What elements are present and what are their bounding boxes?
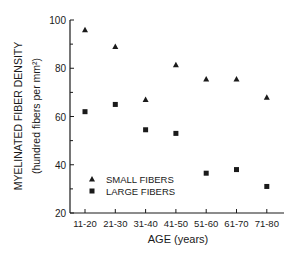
- x-tick-label: 31-40: [133, 218, 157, 229]
- legend-label: LARGE FIBERS: [106, 186, 175, 197]
- y-tick-label: 80: [55, 63, 67, 74]
- large-fiber-point: [173, 131, 178, 136]
- y-tick-label: 40: [55, 160, 67, 171]
- legend-triangle-icon: [89, 176, 95, 182]
- small-fiber-point: [264, 94, 270, 100]
- x-axis-label: AGE (years): [148, 233, 209, 245]
- scatter-chart: 2040608010011-2021-3031-4041-5051-6061-7…: [0, 0, 298, 256]
- large-fiber-point: [264, 184, 269, 189]
- small-fiber-point: [82, 27, 88, 33]
- x-tick-label: 11-20: [73, 218, 97, 229]
- y-tick-label: 60: [55, 112, 67, 123]
- x-tick-label: 71-80: [255, 218, 279, 229]
- y-tick-label: 20: [55, 208, 67, 219]
- x-tick-label: 21-30: [103, 218, 127, 229]
- small-fiber-point: [143, 97, 149, 103]
- small-fiber-point: [173, 62, 179, 68]
- small-fiber-point: [234, 76, 240, 82]
- small-fiber-point: [203, 76, 209, 82]
- legend-square-icon: [90, 189, 95, 194]
- y-tick-label: 100: [49, 15, 66, 26]
- x-tick-label: 41-50: [164, 218, 188, 229]
- x-tick-label: 61-70: [224, 218, 248, 229]
- large-fiber-point: [204, 171, 209, 176]
- large-fiber-point: [83, 109, 88, 114]
- large-fiber-point: [234, 167, 239, 172]
- large-fiber-point: [113, 102, 118, 107]
- x-tick-label: 51-60: [194, 218, 218, 229]
- large-fiber-point: [143, 127, 148, 132]
- small-fiber-point: [112, 44, 118, 50]
- legend-label: SMALL FIBERS: [106, 174, 174, 185]
